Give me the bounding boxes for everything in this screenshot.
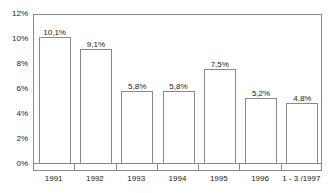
bar-value-label: 10,1% (34, 28, 75, 37)
bars-container: 10,1%9,1%5,8%5,8%7,5%5,2%4,8% (34, 15, 321, 163)
y-tick-label: 2% (16, 135, 28, 143)
y-tick-label: 4% (16, 110, 28, 118)
plot-area: 10,1%9,1%5,8%5,8%7,5%5,2%4,8% (33, 14, 322, 164)
x-axis-label: 1993 (116, 173, 157, 185)
bar-value-label: 9,1% (75, 40, 116, 49)
y-tick-label: 8% (16, 60, 28, 68)
x-axis-label: 1992 (74, 173, 115, 185)
y-axis: 0%2%4%6%8%10%12% (0, 14, 31, 164)
bar (245, 98, 277, 163)
bar-value-label: 5,2% (240, 89, 281, 98)
y-tick-label: 6% (16, 85, 28, 93)
bar (163, 91, 195, 164)
bar (39, 37, 71, 163)
x-axis-label: 1991 (33, 173, 74, 185)
x-axis-label: 1996 (239, 173, 280, 185)
bar-value-label: 4,8% (282, 94, 323, 103)
y-tick-label: 10% (12, 35, 28, 43)
x-axis-label: 1 - 3 /1997 (281, 173, 322, 185)
bar (286, 103, 318, 163)
bar-value-label: 7,5% (199, 60, 240, 69)
x-axis-label: 1994 (157, 173, 198, 185)
chart-title (0, 0, 330, 4)
bar-value-label: 5,8% (117, 82, 158, 91)
x-axis-label: 1995 (198, 173, 239, 185)
bar (121, 91, 153, 164)
y-tick-label: 0% (16, 160, 28, 168)
y-tick-label: 12% (12, 10, 28, 18)
x-axis-labels: 1991199219931994199519961 - 3 /1997 (33, 173, 322, 187)
bar (80, 49, 112, 163)
bar (204, 69, 236, 163)
x-axis-rule (33, 170, 322, 171)
bar-value-label: 5,8% (158, 82, 199, 91)
bar-chart: 0%2%4%6%8%10%12% 10,1%9,1%5,8%5,8%7,5%5,… (0, 0, 330, 193)
